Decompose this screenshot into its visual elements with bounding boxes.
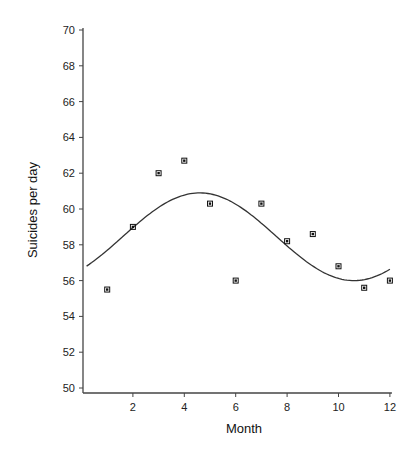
x-tick-label: 2: [130, 401, 136, 413]
data-point: [259, 201, 264, 206]
data-point: [310, 232, 315, 237]
x-axis-title: Month: [226, 421, 262, 436]
y-tick-label: 52: [63, 346, 75, 358]
ticks: 505254565860626466687024681012: [63, 24, 396, 413]
x-tick-label: 8: [284, 401, 290, 413]
y-axis-title: Suicides per day: [25, 161, 40, 258]
data-point: [182, 158, 187, 163]
y-tick-label: 68: [63, 60, 75, 72]
data-point: [233, 278, 238, 283]
data-point: [208, 201, 213, 206]
y-tick-label: 64: [63, 131, 75, 143]
x-tick-label: 12: [384, 401, 396, 413]
fitted-curve: [87, 193, 390, 281]
x-tick-label: 4: [181, 401, 187, 413]
y-tick-label: 66: [63, 96, 75, 108]
axes: [83, 28, 392, 393]
data-point: [285, 239, 290, 244]
data-point: [387, 278, 392, 283]
y-tick-label: 62: [63, 167, 75, 179]
x-tick-label: 6: [233, 401, 239, 413]
data-point: [105, 287, 110, 292]
data-point: [336, 264, 341, 269]
y-tick-label: 58: [63, 239, 75, 251]
y-tick-label: 56: [63, 275, 75, 287]
data-point: [362, 285, 367, 290]
y-tick-label: 54: [63, 310, 75, 322]
y-tick-label: 70: [63, 24, 75, 36]
scatter-chart: 505254565860626466687024681012 Month Sui…: [0, 0, 416, 453]
data-point: [156, 171, 161, 176]
y-tick-label: 50: [63, 382, 75, 394]
data-points: [105, 158, 393, 292]
y-tick-label: 60: [63, 203, 75, 215]
x-tick-label: 10: [332, 401, 344, 413]
